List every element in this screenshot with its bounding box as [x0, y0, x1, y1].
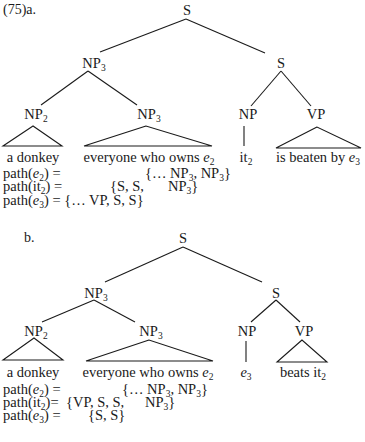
- branch-a-s-vp: [281, 71, 311, 106]
- branch-b-s-np: [251, 300, 276, 322]
- node-b-np3-top: NP3: [84, 286, 107, 301]
- node-a-np2: NP2: [24, 107, 47, 122]
- branch-a-s-np3: [100, 19, 186, 52]
- leaf-a-it2: it2: [240, 150, 253, 165]
- part-a-label: a.: [26, 2, 36, 17]
- path-b-it2-rhs-b: NP3}: [145, 395, 175, 410]
- node-a-vp: VP: [307, 107, 326, 122]
- triangle-b-vp: [277, 340, 327, 362]
- node-a-s-right: S: [277, 56, 285, 71]
- branch-b-np3-np3: [94, 300, 135, 322]
- leaf-b-e3: e3: [240, 365, 251, 380]
- leaf-b-everyone-who-owns: everyone who owns e2: [83, 365, 214, 380]
- branch-a-np3-np2: [41, 71, 88, 105]
- leaf-a-a-donkey: a donkey: [7, 150, 60, 165]
- branch-a-s-np: [251, 71, 281, 106]
- triangle-b-np2: [3, 338, 63, 360]
- leaf-b-a-donkey: a donkey: [7, 365, 60, 380]
- node-a-root-s: S: [183, 3, 191, 18]
- branch-b-s-vp: [276, 300, 300, 322]
- triangle-a-np3: [84, 126, 212, 146]
- node-a-np: NP: [239, 107, 258, 122]
- path-b-e3-lhs: path(e3) =: [3, 408, 61, 423]
- node-b-np2: NP2: [24, 324, 47, 339]
- triangle-a-vp: [276, 127, 361, 148]
- example-number: (75): [3, 2, 26, 17]
- path-a-e3: path(e3) = {… VP, S, S}: [3, 193, 144, 208]
- node-b-root-s: S: [179, 231, 187, 246]
- leaf-b-beats-it2: beats it2: [280, 365, 326, 380]
- branch-b-np3-np2: [42, 300, 94, 322]
- branch-a-s-s: [186, 19, 265, 53]
- node-b-s-right: S: [272, 286, 280, 301]
- path-a-it2-rhs-b: NP3}: [168, 179, 198, 194]
- leaf-a-everyone-who-owns: everyone who owns e2: [84, 150, 215, 165]
- node-b-np: NP: [238, 324, 257, 339]
- example-label-a: (75)a.: [3, 3, 36, 17]
- node-b-np3-bottom: NP3: [139, 324, 162, 339]
- branch-a-np3-np3: [88, 71, 137, 105]
- branch-b-s-s: [183, 247, 262, 282]
- node-a-np3-bottom: NP3: [137, 107, 160, 122]
- triangle-a-np2: [3, 126, 62, 146]
- triangle-b-np3: [86, 340, 213, 361]
- leaf-a-is-beaten-by: is beaten by e3: [276, 150, 360, 165]
- branch-b-s-np3: [105, 247, 183, 282]
- node-a-np3-top: NP3: [82, 56, 105, 71]
- node-b-vp: VP: [295, 324, 314, 339]
- part-b-label: b.: [24, 231, 35, 245]
- path-b-e3-rhs: {S, S}: [88, 408, 125, 423]
